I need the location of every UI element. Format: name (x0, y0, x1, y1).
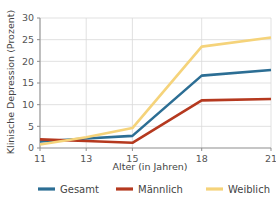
y-tick-label: 5 (28, 121, 34, 132)
chart-legend: GesamtMännlichWeiblich (38, 184, 270, 195)
y-axis-title: Klinische Depression (Prozent) (5, 10, 16, 154)
legend-label: Gesamt (60, 184, 99, 195)
x-tick-label: 11 (34, 153, 46, 164)
y-tick-label: 20 (22, 56, 34, 67)
y-tick-label: 25 (22, 34, 34, 45)
x-tick-label: 18 (196, 153, 208, 164)
y-tick-label: 10 (22, 99, 34, 110)
x-axis-title: Alter (in Jahren) (113, 161, 188, 172)
y-tick-label: 30 (22, 12, 34, 23)
chart-figure: 051015202530 1113151821 Klinische Depres… (0, 0, 276, 213)
y-tick-label: 15 (22, 77, 34, 88)
x-tick-label: 21 (265, 153, 276, 164)
y-tick-label: 0 (28, 142, 34, 153)
x-tick-label: 13 (80, 153, 92, 164)
line-chart-svg: 051015202530 1113151821 Klinische Depres… (0, 0, 276, 213)
plot-background (0, 0, 276, 213)
legend-label: Weiblich (228, 184, 270, 195)
legend-label: Männlich (138, 184, 183, 195)
